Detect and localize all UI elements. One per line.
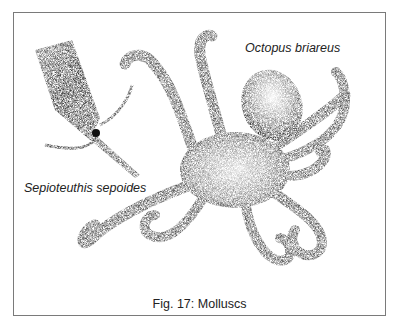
octopus-drawing [83,35,345,260]
squid-species-label: Sepioteuthis sepoides [24,181,146,195]
octopus-species-label: Octopus briareus [245,41,340,55]
figure-caption: Fig. 17: Molluscs [0,297,399,311]
